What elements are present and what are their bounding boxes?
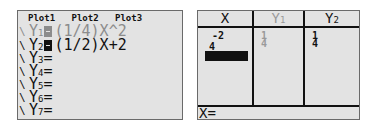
y7-expression[interactable]: = <box>43 101 52 119</box>
graph-style-icon[interactable]: \ <box>19 52 29 65</box>
header-divider <box>198 26 359 28</box>
column-header-y2: Y2 <box>305 11 359 26</box>
column-divider <box>303 11 305 106</box>
column-header-y1: Y1 <box>254 11 303 26</box>
y7-function-row[interactable]: \Y7= <box>19 104 52 117</box>
graph-style-icon[interactable]: \ <box>19 104 29 117</box>
column-divider <box>252 11 254 106</box>
graph-style-icon[interactable]: \ <box>19 78 29 91</box>
edit-cursor[interactable] <box>205 51 248 61</box>
table-cell-y1-2: 4 <box>261 39 267 48</box>
graph-style-icon[interactable]: \ <box>19 65 29 78</box>
y2-expression[interactable]: (1/2)X+2 <box>54 36 126 54</box>
entry-divider <box>198 105 359 107</box>
table-cell-x-2[interactable]: 4 <box>209 42 215 51</box>
table-screen: X Y1 Y2 -2 4 1 4 1 4 X= <box>197 10 360 120</box>
y-equals-editor-screen: Plot1 Plot2 Plot3 \Y1(1/4)X^2 \Y2(1/2)X+… <box>17 10 183 120</box>
table-cell-y2-2: 4 <box>312 39 318 48</box>
graph-style-icon[interactable]: \ <box>19 91 29 104</box>
column-header-x: X <box>198 11 252 26</box>
graph-style-icon[interactable]: \ <box>19 25 29 38</box>
table-cell-x-1[interactable]: -2 <box>212 31 224 40</box>
entry-line[interactable]: X= <box>199 107 216 120</box>
select-toggle-icon[interactable] <box>44 26 52 37</box>
graph-style-icon[interactable]: \ <box>19 39 29 52</box>
